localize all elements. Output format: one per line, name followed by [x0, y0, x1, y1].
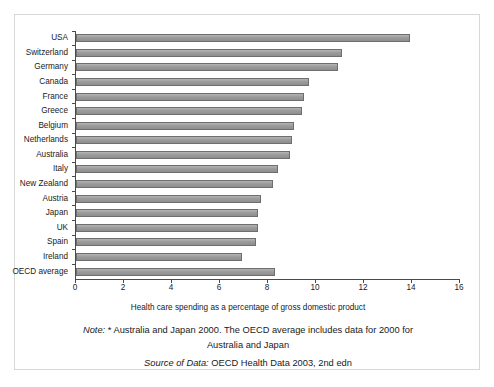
bar-category-label: France [43, 92, 68, 100]
bar-category-label: Spain [47, 238, 68, 246]
source-label: Source of Data: [144, 358, 209, 368]
bar [76, 78, 309, 86]
y-axis-tick [72, 118, 75, 119]
bar-category-label: Japan [46, 209, 68, 217]
bar-row: Germany [75, 60, 475, 75]
y-axis-tick [72, 60, 75, 61]
bar-category-label: UK [57, 224, 68, 232]
bar [76, 238, 256, 246]
y-axis-tick [72, 103, 75, 104]
bar-category-label: Ireland [43, 253, 68, 261]
x-tick-label: 12 [358, 284, 367, 292]
note-text-line-1: * Australia and Japan 2000. The OECD ave… [108, 325, 413, 335]
bar-row: France [75, 89, 475, 104]
plot-area: USASwitzerlandGermanyCanadaFranceGreeceB… [15, 15, 481, 287]
bar-row: USA [75, 31, 475, 46]
bar-category-label: Austria [43, 195, 68, 203]
bar [76, 253, 242, 261]
x-axis-ticks: 0246810121416 [75, 279, 459, 303]
y-axis-tick [72, 162, 75, 163]
bar-row: Australia [75, 148, 475, 163]
bar-category-label: USA [51, 34, 68, 42]
bar-row: Belgium [75, 118, 475, 133]
bar-row: Ireland [75, 250, 475, 265]
caption-block: Note: * Australia and Japan 2000. The OE… [15, 323, 481, 371]
bar-category-label: Greece [41, 107, 68, 115]
x-axis-title: Health care spending as a percentage of … [15, 303, 481, 312]
bar-category-label: Canada [39, 78, 68, 86]
x-tick-label: 16 [454, 284, 463, 292]
bar [76, 151, 290, 159]
bar-series: USASwitzerlandGermanyCanadaFranceGreeceB… [75, 31, 475, 279]
y-axis-tick [72, 249, 75, 250]
x-tick-label: 14 [406, 284, 415, 292]
bar-category-label: Australia [36, 151, 68, 159]
bar [76, 34, 410, 42]
x-tick-label: 6 [217, 284, 222, 292]
bar [76, 136, 292, 144]
source-text: OECD Health Data 2003, 2nd edn [211, 358, 352, 368]
bar-row: New Zealand [75, 177, 475, 192]
y-axis-tick [72, 133, 75, 134]
y-axis-tick [72, 147, 75, 148]
y-axis-tick [72, 220, 75, 221]
bar-row: Italy [75, 162, 475, 177]
bar [76, 224, 258, 232]
bar-row: Canada [75, 75, 475, 90]
bar-row: UK [75, 221, 475, 236]
bar [76, 122, 294, 130]
bar-category-label: Italy [53, 165, 68, 173]
bar-category-label: Belgium [38, 122, 68, 130]
bar [76, 93, 304, 101]
y-axis-tick [72, 176, 75, 177]
y-axis-tick [72, 235, 75, 236]
y-axis-tick [72, 89, 75, 90]
y-axis-tick [72, 31, 75, 32]
bar-category-label: Switzerland [26, 49, 68, 57]
bar-row: Austria [75, 191, 475, 206]
y-axis-tick [72, 191, 75, 192]
bar [76, 268, 275, 276]
note-label: Note: [83, 325, 105, 335]
y-axis-tick [72, 45, 75, 46]
y-axis-tick [72, 205, 75, 206]
note-line-1: Note: * Australia and Japan 2000. The OE… [15, 323, 481, 338]
figure-container: USASwitzerlandGermanyCanadaFranceGreeceB… [14, 14, 480, 370]
bar-row: Greece [75, 104, 475, 119]
y-axis-tick [72, 74, 75, 75]
bar [76, 165, 278, 173]
bar-category-label: OECD average [12, 267, 68, 275]
bar-row: Switzerland [75, 46, 475, 61]
x-tick-label: 0 [73, 284, 78, 292]
x-tick-label: 2 [121, 284, 126, 292]
bar [76, 195, 261, 203]
bar [76, 49, 342, 57]
bar-category-label: Netherlands [24, 136, 68, 144]
bar [76, 180, 273, 188]
x-tick-label: 10 [310, 284, 319, 292]
bar-row: Netherlands [75, 133, 475, 148]
x-tick-label: 8 [265, 284, 270, 292]
bar-row: OECD average [75, 264, 475, 279]
bar-category-label: Germany [34, 63, 68, 71]
x-tick-label: 4 [169, 284, 174, 292]
bar [76, 63, 338, 71]
bar [76, 107, 302, 115]
bar [76, 209, 258, 217]
note-line-2: Australia and Japan [15, 338, 481, 353]
source-line: Source of Data: OECD Health Data 2003, 2… [15, 356, 481, 371]
bar-row: Spain [75, 235, 475, 250]
bar-category-label: New Zealand [20, 180, 68, 188]
y-axis-tick [72, 264, 75, 265]
bar-row: Japan [75, 206, 475, 221]
